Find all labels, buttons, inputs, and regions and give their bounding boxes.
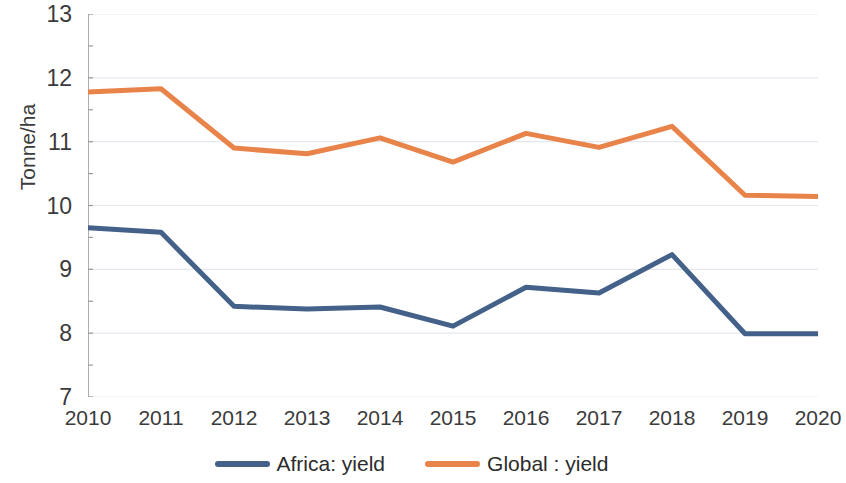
plot-area <box>88 14 818 397</box>
legend-line-swatch-icon <box>425 461 480 467</box>
series-line <box>88 89 818 197</box>
y-axis-tick-label: 11 <box>12 130 72 153</box>
legend-item[interactable]: Africa: yield <box>215 452 386 476</box>
chart-legend: Africa: yieldGlobal : yield <box>0 452 823 476</box>
x-axis-tick-labels: 2010201120122013201420152016201720182019… <box>88 406 818 440</box>
y-axis-tick-label: 13 <box>12 3 72 26</box>
plot-svg <box>88 14 818 397</box>
y-axis-tick-label: 12 <box>12 66 72 89</box>
x-axis-tick-label: 2020 <box>773 406 846 430</box>
y-axis-tick-label: 9 <box>12 258 72 281</box>
series-line <box>88 228 818 334</box>
y-axis-tick-labels: 13121110987 <box>10 14 72 397</box>
y-axis-tick-label: 10 <box>12 194 72 217</box>
data-series-lines <box>88 89 818 334</box>
legend-label: Africa: yield <box>277 452 386 476</box>
gridlines <box>88 14 818 397</box>
legend-label: Global : yield <box>487 452 608 476</box>
legend-item[interactable]: Global : yield <box>425 452 608 476</box>
legend-line-swatch-icon <box>215 461 270 467</box>
y-axis-tick-label: 8 <box>12 322 72 345</box>
